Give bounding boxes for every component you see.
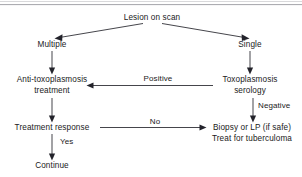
node-treat-for-tuberculoma-line2: Treat for tuberculoma [212, 134, 292, 143]
edge-negative-serology-to-biopsy [250, 98, 256, 123]
edge-treatment-to-treatment-response [49, 98, 55, 123]
node-toxoplasmosis-serology-line2: serology [234, 86, 267, 95]
node-lesion-on-scan: Lesion on scan [124, 13, 181, 22]
edge-label-yes: Yes [60, 137, 73, 146]
edge-label-negative: Negative [258, 101, 291, 110]
edge-positive-serology-to-treatment [87, 82, 214, 88]
node-multiple: Multiple [37, 40, 66, 49]
flowchart-canvas: Lesion on scan Multiple Single Anti-toxo… [0, 0, 302, 177]
node-anti-toxoplasmosis-treatment-line2: treatment [34, 86, 70, 95]
edge-label-no: No [150, 117, 161, 126]
edge-root-to-multiple [55, 24, 144, 41]
node-continue: Continue [35, 161, 69, 170]
edge-yes-treatment-response-to-continue [49, 134, 55, 161]
node-treatment-response: Treatment response [15, 123, 90, 132]
flowchart-figure: Lesion on scan Multiple Single Anti-toxo… [0, 0, 302, 177]
node-toxoplasmosis-serology-line1: Toxoplasmosis [223, 75, 278, 84]
edge-root-to-single [162, 24, 250, 41]
node-anti-toxoplasmosis-treatment-line1: Anti-toxoplasmosis [17, 75, 88, 84]
edge-single-to-toxoplasmosis-serology [247, 51, 253, 75]
edge-multiple-to-anti-toxoplasmosis [49, 51, 55, 75]
node-biopsy-or-lp-line1: Biopsy or LP (if safe) [213, 123, 291, 132]
edge-label-positive: Positive [144, 74, 173, 83]
node-single: Single [238, 40, 262, 49]
